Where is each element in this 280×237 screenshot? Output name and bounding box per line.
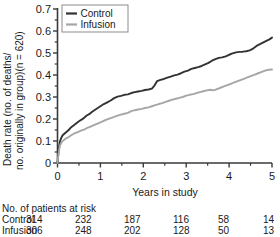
y-axis-tick-label: 0.2 xyxy=(36,113,51,125)
risk-table-caption: No. of patients at risk xyxy=(2,203,97,214)
y-axis-tick-label: 0.5 xyxy=(36,47,51,59)
x-axis-tick-label: 4 xyxy=(226,170,232,182)
x-axis-tick-label: 1 xyxy=(97,170,103,182)
y-axis-tick-label: 0 xyxy=(45,157,51,169)
x-axis-tick-label: 0 xyxy=(54,170,60,182)
risk-cell: 116 xyxy=(173,214,189,225)
x-axis-title: Years in study xyxy=(132,186,198,198)
risk-cell: 50 xyxy=(218,225,230,236)
series-line-control xyxy=(58,38,273,163)
x-axis-tick-label: 3 xyxy=(183,170,189,182)
risk-cell: 202 xyxy=(124,225,141,236)
risk-cell: 58 xyxy=(218,214,230,225)
risk-table: No. of patients at riskControl3142321871… xyxy=(2,203,275,236)
x-axis-tick-label: 5 xyxy=(269,170,275,182)
risk-cell: 306 xyxy=(26,225,43,236)
legend-label-control[interactable]: Control xyxy=(81,8,113,19)
y-axis-tick-label: 0.6 xyxy=(36,25,51,37)
chart-svg: Death rate (no. of deaths/ no. originall… xyxy=(0,0,280,237)
survival-curve-figure: Death rate (no. of deaths/ no. originall… xyxy=(0,0,280,237)
y-axis-tick-label: 0.4 xyxy=(36,69,51,81)
y-axis-tick-label: 0.1 xyxy=(36,135,51,147)
risk-cell: 187 xyxy=(124,214,141,225)
series-line-infusion xyxy=(58,70,273,164)
y-axis-title: Death rate (no. of deaths/ no. originall… xyxy=(2,31,25,170)
risk-cell: 314 xyxy=(26,214,43,225)
chart-legend[interactable]: ControlInfusion xyxy=(62,5,128,32)
y-axis-tick-label: 0.3 xyxy=(36,91,51,103)
risk-cell: 128 xyxy=(173,225,190,236)
risk-cell: 248 xyxy=(75,225,92,236)
y-axis-title-line1: Death rate (no. of deaths/ xyxy=(2,52,13,166)
legend-label-infusion[interactable]: Infusion xyxy=(81,19,116,30)
data-series-layer xyxy=(58,38,273,163)
risk-cell: 13 xyxy=(263,225,275,236)
risk-cell: 14 xyxy=(263,214,275,225)
y-axis-title-line2: no. originally in group)(n = 620) xyxy=(14,31,25,170)
y-axis-tick-label: 0.7 xyxy=(36,3,51,15)
x-axis-tick-label: 2 xyxy=(140,170,146,182)
risk-cell: 232 xyxy=(75,214,92,225)
